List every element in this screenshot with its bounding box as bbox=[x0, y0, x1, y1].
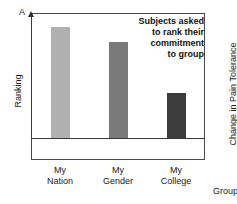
figure-container: A Subjects asked to rank their commitmen… bbox=[0, 0, 237, 204]
y-axis-title-pain-tolerance: Change in Pain Tolerance bbox=[228, 29, 237, 159]
x-label-my-gender: My Gender bbox=[89, 165, 147, 187]
x-label-my-college: My College bbox=[147, 165, 205, 187]
x-label-my-gender-line2: Gender bbox=[89, 176, 147, 187]
x-label-my-college-line2: College bbox=[147, 176, 205, 187]
x-axis-title-group: Group bbox=[213, 186, 237, 196]
panel-a: A Subjects asked to rank their commitmen… bbox=[0, 0, 210, 204]
x-axis-category-labels: My Nation My Gender My College bbox=[31, 165, 205, 197]
chart-annotation: Subjects asked to rank their commitment … bbox=[118, 16, 204, 60]
x-label-my-nation-line2: Nation bbox=[31, 176, 89, 187]
annotation-line-3: commitment bbox=[118, 38, 204, 49]
bar-my-nation bbox=[51, 27, 70, 138]
x-label-my-nation-line1: My bbox=[31, 165, 89, 176]
bar-my-college bbox=[167, 93, 186, 138]
annotation-line-4: to group bbox=[118, 49, 204, 60]
annotation-line-1: Subjects asked bbox=[118, 16, 204, 27]
x-label-my-nation: My Nation bbox=[31, 165, 89, 187]
x-label-my-gender-line1: My bbox=[89, 165, 147, 176]
y-axis-title-ranking: Ranking bbox=[13, 56, 23, 126]
annotation-line-2: to rank their bbox=[118, 27, 204, 38]
x-label-my-college-line1: My bbox=[147, 165, 205, 176]
panel-b: B Change in Pain Tolerance Group bbox=[210, 0, 237, 204]
